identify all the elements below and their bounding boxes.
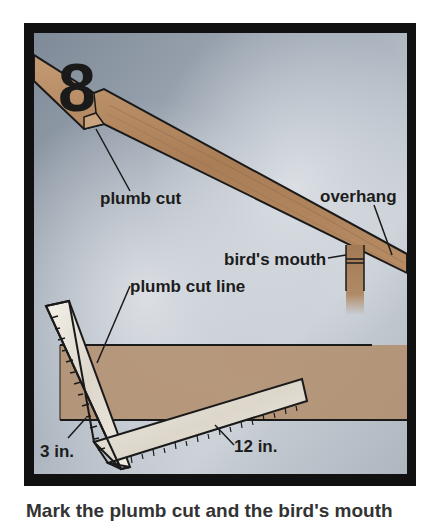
illustration-panel: 8 plumb cut overhang bird's mouth plumb … <box>34 33 407 474</box>
label-plumb-cut: plumb cut <box>100 190 181 207</box>
label-overhang: overhang <box>320 188 397 205</box>
caption-text: Mark the plumb cut and the bird's mouth <box>26 500 426 522</box>
label-3-in: 3 in. <box>40 443 74 460</box>
label-birds-mouth: bird's mouth <box>224 251 326 268</box>
figure-frame: 8 plumb cut overhang bird's mouth plumb … <box>24 23 416 486</box>
step-number: 8 <box>58 53 94 121</box>
label-plumb-cut-line: plumb cut line <box>130 278 245 295</box>
label-12-in: 12 in. <box>234 438 277 455</box>
